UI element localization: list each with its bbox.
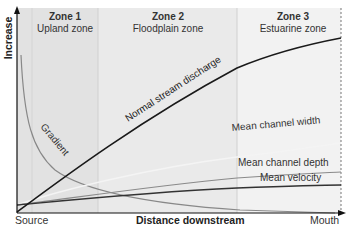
- depth-label: Mean channel depth: [238, 157, 329, 168]
- zone3-name: Zone 3: [248, 11, 338, 23]
- mouth-label: Mouth: [310, 214, 339, 226]
- x-axis-arrow-icon: [338, 210, 346, 216]
- zone2-subtitle: Floodplain zone: [133, 23, 204, 34]
- river-profile-diagram: Normal stream discharge Gradient Mean ch…: [0, 0, 349, 233]
- zone2-background: [98, 8, 237, 213]
- source-label: Source: [15, 214, 48, 226]
- zone3-title: Zone 3 Estuarine zone: [248, 11, 338, 35]
- y-axis-label: Increase: [2, 8, 14, 68]
- zone3-subtitle: Estuarine zone: [260, 23, 327, 34]
- velocity-label: Mean velocity: [260, 172, 321, 183]
- zone2-title: Zone 2 Floodplain zone: [118, 11, 218, 35]
- x-axis-label: Distance downstream: [136, 214, 245, 226]
- zone1-name: Zone 1: [30, 11, 100, 23]
- zone1-subtitle: Upland zone: [37, 23, 93, 34]
- zone2-name: Zone 2: [118, 11, 218, 23]
- zone1-title: Zone 1 Upland zone: [30, 11, 100, 35]
